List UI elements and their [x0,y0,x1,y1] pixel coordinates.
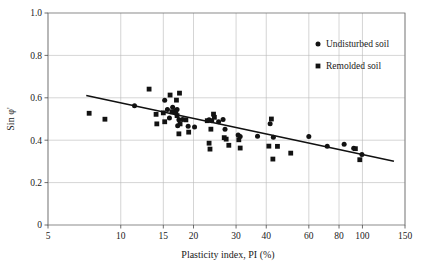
x-tick-label: 80 [334,231,344,241]
y-tick-label: 0.6 [30,93,42,103]
data-point-remolded [162,119,167,124]
y-tick-label: 0.8 [30,51,42,61]
data-point-undisturbed [180,117,185,122]
x-tick-label: 15 [159,231,169,241]
data-point-remolded [103,117,108,122]
data-point-remolded [176,131,181,136]
data-point-remolded [266,144,271,149]
data-point-undisturbed [306,134,311,139]
data-point-undisturbed [175,107,180,112]
scatter-plot: 510152030406080100150 00.20.40.60.81.0 U… [0,0,428,272]
y-tick-label: 0.2 [30,178,42,188]
data-point-remolded [154,121,159,126]
data-point-undisturbed [165,107,170,112]
x-tick-label: 5 [46,231,51,241]
data-point-undisturbed [216,119,221,124]
x-tick-label: 10 [116,231,126,241]
data-point-remolded [168,93,173,98]
legend-marker-square [316,64,321,69]
data-point-undisturbed [359,152,364,157]
data-point-remolded [275,144,280,149]
data-point-undisturbed [351,146,356,151]
x-tick-labels: 510152030406080100150 [46,231,413,241]
x-axis-title: Plasticity index, PI (%) [181,249,274,261]
data-point-remolded [147,87,152,92]
data-point-remolded [238,146,243,151]
y-tick-label: 1.0 [30,8,42,18]
data-point-undisturbed [175,123,180,128]
data-point-undisturbed [132,103,137,108]
data-point-remolded [288,151,293,156]
legend-label: Remolded soil [326,61,382,71]
data-point-undisturbed [167,115,172,120]
data-point-remolded [224,137,229,142]
x-tick-label: 30 [231,231,241,241]
y-axis-ticks [45,13,49,225]
data-point-undisturbed [221,117,226,122]
y-tick-labels: 00.20.40.60.81.0 [30,8,42,230]
data-point-remolded [208,147,213,152]
x-tick-label: 60 [304,231,314,241]
data-point-remolded [177,91,182,96]
data-point-remolded [269,117,274,122]
data-point-undisturbed [271,135,276,140]
x-tick-label: 40 [262,231,272,241]
data-point-remolded [270,157,275,162]
data-point-undisturbed [186,124,191,129]
data-point-remolded [357,157,362,162]
y-tick-label: 0.4 [30,136,42,146]
y-tick-label: 0 [37,220,42,230]
legend: Undisturbed soilRemolded soil [316,39,390,71]
data-point-remolded [87,111,92,116]
data-point-remolded [174,98,179,103]
data-point-undisturbed [325,144,330,149]
data-point-undisturbed [223,127,228,132]
data-point-undisturbed [162,98,167,103]
data-point-remolded [208,127,213,132]
data-point-remolded [161,110,166,115]
x-axis-ticks [48,225,405,229]
data-point-remolded [226,143,231,148]
legend-marker-circle [316,42,321,47]
legend-label: Undisturbed soil [326,39,389,49]
data-point-undisturbed [342,142,347,147]
data-point-undisturbed [209,118,214,123]
data-point-remolded [154,112,159,117]
data-point-remolded [186,130,191,135]
x-tick-label: 100 [355,231,370,241]
x-tick-label: 150 [398,231,413,241]
y-axis-title: Sin φ' [5,107,16,131]
data-point-undisturbed [192,125,197,130]
x-tick-label: 20 [189,231,199,241]
data-point-undisturbed [255,134,260,139]
data-point-undisturbed [238,134,243,139]
figure-container: 510152030406080100150 00.20.40.60.81.0 U… [0,0,428,272]
data-point-undisturbed [268,121,273,126]
data-point-remolded [207,141,212,146]
